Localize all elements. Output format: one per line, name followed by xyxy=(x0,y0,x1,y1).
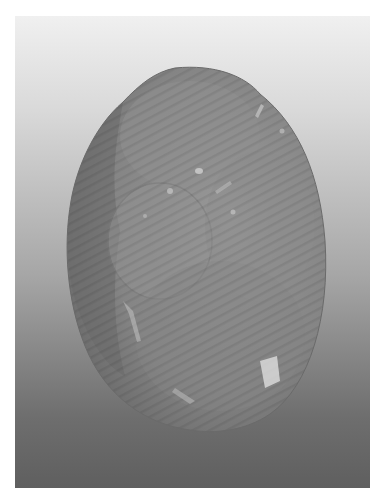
shell-body xyxy=(15,16,370,488)
shell-render xyxy=(15,16,370,488)
render-viewport xyxy=(15,16,370,488)
